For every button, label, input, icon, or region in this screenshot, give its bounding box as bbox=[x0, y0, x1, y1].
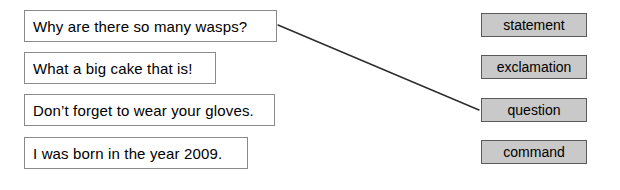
category-label-exclamation: exclamation bbox=[497, 60, 572, 74]
category-box-exclamation[interactable]: exclamation bbox=[481, 55, 587, 79]
sentence-box-2[interactable]: What a big cake that is! bbox=[24, 52, 216, 84]
sentence-text-2: What a big cake that is! bbox=[33, 61, 193, 76]
connector-line-prompt-1-to-category-3[interactable] bbox=[278, 25, 479, 110]
sentence-text-4: I was born in the year 2009. bbox=[33, 146, 222, 161]
sentence-text-3: Don’t forget to wear your gloves. bbox=[33, 103, 254, 118]
category-label-statement: statement bbox=[503, 18, 564, 32]
category-label-command: command bbox=[503, 145, 564, 159]
sentence-box-3[interactable]: Don’t forget to wear your gloves. bbox=[24, 94, 275, 126]
category-box-question[interactable]: question bbox=[481, 98, 587, 122]
category-box-statement[interactable]: statement bbox=[481, 13, 587, 37]
category-box-command[interactable]: command bbox=[481, 140, 587, 164]
sentence-box-1[interactable]: Why are there so many wasps? bbox=[24, 10, 277, 42]
matching-exercise-canvas: Why are there so many wasps? What a big … bbox=[0, 0, 620, 190]
sentence-text-1: Why are there so many wasps? bbox=[33, 19, 247, 34]
category-label-question: question bbox=[508, 103, 561, 117]
sentence-box-4[interactable]: I was born in the year 2009. bbox=[24, 137, 248, 169]
